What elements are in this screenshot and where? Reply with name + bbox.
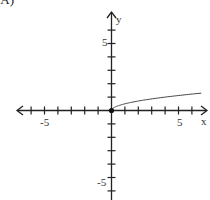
origin-start-dot [109,108,114,113]
x-tick-label-pos5: 5 [177,116,183,128]
chart-canvas: -5 5 5 -5 x y [0,0,210,200]
y-tick-label-neg5: -5 [97,176,107,188]
y-axis-label: y [116,13,122,25]
x-axis-label: x [201,115,207,127]
x-tick-label-neg5: -5 [40,116,50,128]
y-axis [107,12,116,200]
y-tick-label-pos5: 5 [102,36,108,48]
